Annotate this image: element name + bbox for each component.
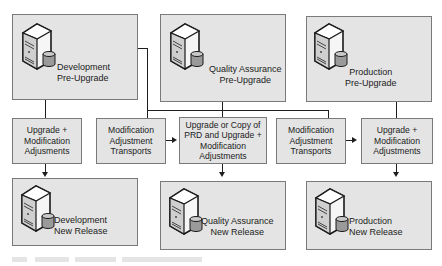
arrow-down-icon — [219, 172, 225, 177]
arrow-down-icon — [393, 172, 399, 177]
arrow-right-icon — [172, 137, 177, 143]
step-dev-upgrade: Upgrade + Modification Adjusments — [12, 118, 82, 164]
step-label: Modification Adjustment Transports — [288, 125, 334, 157]
connector-dev-pre-down — [147, 48, 148, 118]
step-label: Modification Adjustment Transports — [108, 125, 154, 157]
server-database-icon — [19, 21, 57, 71]
step-label: Upgrade + Modification Adjustments — [373, 125, 420, 157]
arrow-right-icon — [352, 137, 357, 143]
step-qa-upgrade: Upgrade or Copy of PRD and Upgrade + Mod… — [179, 117, 267, 164]
step-label: Upgrade or Copy of PRD and Upgrade + Mod… — [184, 120, 262, 162]
connector-bus-to-transport2 — [328, 110, 329, 118]
server-database-icon — [311, 21, 349, 71]
server-database-icon — [167, 21, 205, 71]
env-prd-new-release: Production New Release — [306, 181, 432, 250]
env-name: Quality Assurance — [201, 216, 274, 227]
connector-qa-pre-to-upgrade — [222, 101, 223, 118]
connector-qa-bus — [148, 110, 328, 111]
env-qa-new-release: Quality Assurance New Release — [160, 181, 286, 250]
connector-dev-pre-to-upgrade — [45, 99, 46, 119]
env-name: Production — [345, 67, 397, 78]
env-prd-pre-upgrade: Production Pre-Upgrade — [306, 16, 432, 102]
figure-caption-faded — [12, 257, 202, 262]
env-name: Development — [54, 215, 108, 226]
connector-prd-pre-to-upgrade — [396, 101, 397, 118]
env-stage: Pre-Upgrade — [57, 73, 110, 84]
step-transport-1: Modification Adjustment Transports — [96, 118, 166, 164]
env-name: Production — [349, 216, 403, 227]
step-transport-2: Modification Adjustment Transports — [276, 118, 346, 164]
env-stage: Pre-Upgrade — [345, 78, 397, 89]
server-database-icon — [312, 186, 350, 236]
step-label: Upgrade + Modification Adjusments — [24, 125, 70, 157]
env-dev-new-release: Development New Release — [12, 178, 138, 246]
env-stage: New Release — [201, 227, 274, 238]
step-prd-upgrade: Upgrade + Modification Adjustments — [361, 118, 433, 164]
env-stage: New Release — [54, 226, 108, 237]
arrow-down-icon — [42, 172, 48, 177]
env-name: Development — [57, 62, 110, 73]
env-qa-pre-upgrade: Quality Assurance Pre-Upgrade — [160, 14, 286, 102]
env-stage: New Release — [349, 227, 403, 238]
server-database-icon — [18, 183, 56, 233]
env-name: Quality Assurance — [209, 64, 282, 75]
env-dev-pre-upgrade: Development Pre-Upgrade — [12, 14, 138, 100]
server-database-icon — [166, 186, 204, 236]
env-stage: Pre-Upgrade — [209, 75, 282, 86]
